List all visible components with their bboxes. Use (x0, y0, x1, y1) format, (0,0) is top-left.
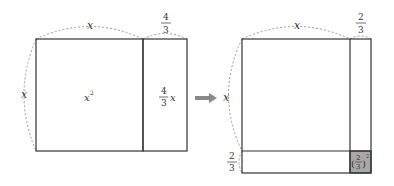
corner-num: 2 (356, 154, 360, 162)
transform-arrow-icon (195, 93, 217, 103)
square-area-exp: 2 (90, 89, 94, 96)
right-side-label: x (223, 91, 230, 104)
bottom-side-den: 3 (229, 163, 235, 173)
right-strip-top-den: 3 (358, 25, 364, 35)
strip-coef-num: 4 (161, 86, 167, 96)
left-strip-top-den: 3 (163, 25, 169, 35)
right-figure: x x 2 3 2 3 ( 2 3 ) 2 (223, 12, 371, 173)
corner-den: 3 (356, 163, 360, 171)
completing-square-diagram: x x 4 3 x 2 4 3 x x x 2 3 2 3 ( 2 3 (0, 0, 394, 186)
strip-area-var: x (170, 92, 176, 103)
corner-exp: 2 (366, 153, 369, 159)
left-figure: x x 4 3 x 2 4 3 x (21, 12, 187, 151)
corner-paren-open: ( (351, 158, 355, 169)
corner-paren-close: ) (362, 158, 366, 169)
right-strip-top-num: 2 (358, 12, 364, 22)
left-strip-top-num: 4 (163, 12, 169, 22)
left-top-label: x (87, 19, 94, 32)
right-side-brace (229, 39, 243, 151)
strip-coef-den: 3 (161, 98, 167, 108)
right-top-label: x (294, 19, 301, 32)
bottom-side-num: 2 (229, 151, 235, 161)
left-side-label: x (21, 88, 28, 101)
